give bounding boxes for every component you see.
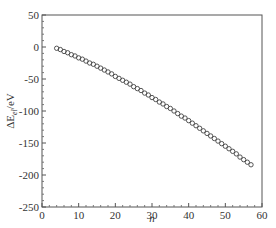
y-tick-label: 50	[28, 9, 40, 21]
x-tick-label: 10	[73, 209, 85, 221]
x-tick-label: 40	[183, 209, 195, 221]
x-tick-label: 60	[257, 209, 269, 221]
y-tick-label: -250	[19, 201, 40, 213]
chart: 0102030405060 500-50-100-150-200-250 n Δ…	[0, 0, 276, 228]
plot-frame	[42, 15, 262, 207]
y-tick-label: -100	[19, 105, 40, 117]
data-point	[249, 163, 253, 167]
y-tick-label: -200	[19, 169, 40, 181]
x-tick-label: 20	[110, 209, 122, 221]
x-tick-label: 50	[220, 209, 232, 221]
x-axis-title: n	[149, 212, 155, 224]
data-series	[54, 46, 253, 167]
data-point	[234, 152, 238, 156]
y-tick-label: -150	[19, 137, 40, 149]
x-tick-label: 0	[39, 209, 45, 221]
y-tick-label: 0	[34, 41, 40, 53]
y-axis-title: ΔEel/eV	[4, 93, 19, 129]
plot-border	[42, 15, 262, 207]
y-tick-label: -50	[24, 73, 39, 85]
